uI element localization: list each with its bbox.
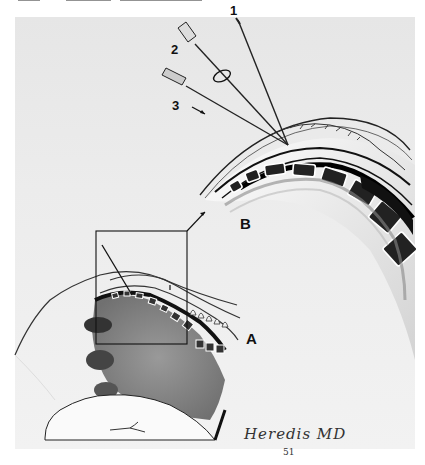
- label-overview-a: A: [246, 330, 257, 347]
- overview-a: [15, 245, 240, 440]
- detail-view-b: [200, 118, 418, 360]
- needle-1: [236, 18, 288, 145]
- signature-number: 51: [283, 447, 294, 457]
- connector-arrow-icon: [200, 212, 205, 216]
- label-needle-2: 2: [171, 42, 178, 57]
- label-needle-3: 3: [172, 98, 179, 113]
- artist-signature: Heredis MD: [244, 425, 346, 443]
- needle-2: [178, 22, 288, 145]
- direction-arrow-icon: [200, 110, 205, 114]
- medical-illustration: [0, 0, 425, 465]
- label-detail-b: B: [240, 215, 251, 232]
- label-needle-1: 1: [230, 3, 237, 18]
